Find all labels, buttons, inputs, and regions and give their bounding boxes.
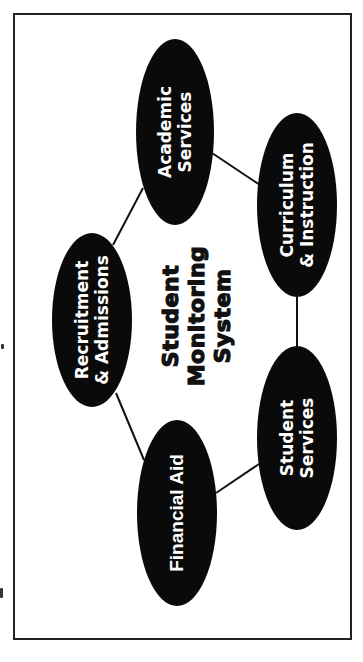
node-label: Student Services [277,398,317,479]
node-label: Academic Services [155,86,195,178]
node-label-line: Services [175,86,195,178]
node-label-line: Financial Aid [167,454,187,572]
edge-academic-recruitment [113,188,143,245]
node-label-line: & Admissions [92,255,112,385]
node-academic-services: Academic Services [136,39,214,225]
node-label-line: Academic [155,86,175,178]
node-label-line: Student [277,398,297,479]
node-label-line: & Instruction [297,142,317,268]
node-label: Curriculum & Instruction [277,142,317,268]
title-line: Student [158,246,184,387]
node-label-line: Services [297,398,317,479]
diagram-title: Student Monitoring System [158,246,236,387]
edge-financial-student-services [216,464,259,493]
node-label: Financial Aid [167,454,187,572]
node-recruitment-admissions: Recruitment & Admissions [52,233,132,407]
title-line: Monitoring [184,246,210,387]
node-financial-aid: Financial Aid [137,420,217,606]
node-curriculum-instruction: Curriculum & Instruction [257,113,337,297]
edge-academic-curriculum [212,153,260,185]
node-label: Recruitment & Admissions [72,255,112,385]
node-label-line: Curriculum [277,142,297,268]
title-line: System [210,246,236,387]
edge-recruitment-financial [116,393,144,460]
node-student-services: Student Services [257,346,337,530]
node-label-line: Recruitment [72,255,92,385]
